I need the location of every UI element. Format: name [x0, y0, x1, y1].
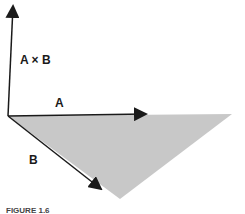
- label-a-cross-b: A × B: [20, 53, 51, 67]
- figure-number: FIGURE 1.6: [6, 206, 50, 214]
- label-b: B: [29, 153, 38, 167]
- cross-product-diagram: A × B A B: [0, 0, 245, 214]
- label-a: A: [55, 96, 64, 110]
- figure-caption: FIGURE 1.6: [6, 206, 245, 214]
- shaded-area-region: [8, 114, 232, 199]
- vector-a-cross-b-arrow: [8, 6, 13, 116]
